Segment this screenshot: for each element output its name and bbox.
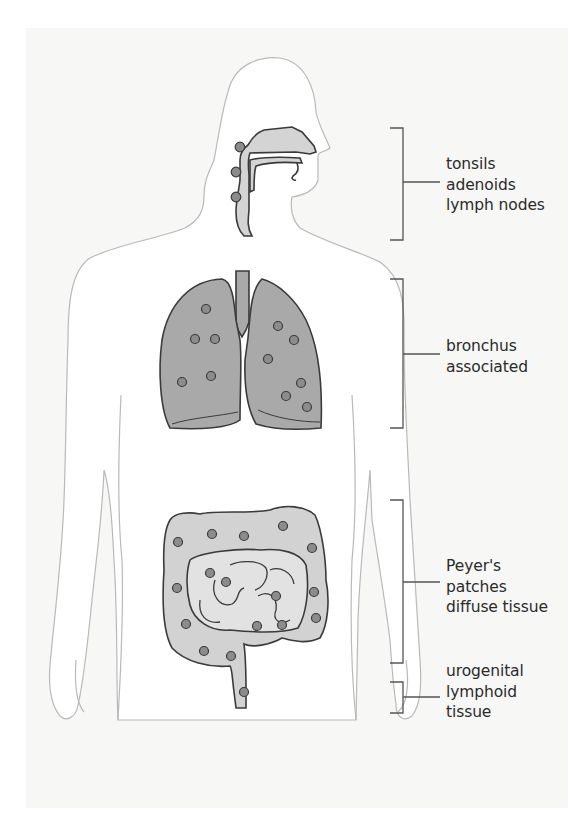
lymph-node-marker [208, 530, 217, 539]
label-line: Peyer's [446, 556, 548, 577]
label-line: adenoids [446, 175, 545, 196]
lymph-node-marker [312, 614, 321, 623]
bracket [390, 128, 440, 240]
lymph-node-marker [264, 355, 273, 364]
lymph-node-marker [200, 647, 209, 656]
label-line: patches [446, 577, 548, 598]
lymph-node-marker [231, 192, 241, 202]
label-line: tissue [446, 702, 524, 723]
lymph-node-marker [207, 372, 216, 381]
lymph-node-marker [310, 588, 319, 597]
label-bronchus-associated: bronchus associated [446, 336, 528, 377]
lymph-node-marker [206, 569, 215, 578]
lymph-node-marker [211, 335, 220, 344]
lymph-node-marker [272, 592, 281, 601]
lymph-node-marker [279, 522, 288, 531]
lymph-node-marker [274, 322, 283, 331]
label-line: tonsils [446, 154, 545, 175]
label-tonsils-adenoids-lymph-nodes: tonsils adenoids lymph nodes [446, 154, 545, 216]
lymph-node-marker [282, 392, 291, 401]
lymph-node-marker [182, 620, 191, 629]
label-line: diffuse tissue [446, 597, 548, 618]
lymph-node-marker [308, 544, 317, 553]
lymph-node-marker [290, 336, 299, 345]
lymph-node-marker [222, 578, 231, 587]
lymph-node-marker [173, 584, 182, 593]
label-line: associated [446, 357, 528, 378]
lymph-node-marker [253, 622, 262, 631]
lymph-node-marker [240, 688, 249, 697]
label-line: lymphoid [446, 682, 524, 703]
lymph-node-marker [278, 621, 287, 630]
lymph-node-marker [240, 532, 249, 541]
label-peyers-patches: Peyer's patches diffuse tissue [446, 556, 548, 618]
lymph-node-marker [297, 379, 306, 388]
label-line: urogenital [446, 661, 524, 682]
lymph-node-marker [202, 305, 211, 314]
label-urogenital-lymphoid-tissue: urogenital lymphoid tissue [446, 661, 524, 723]
label-line: lymph nodes [446, 195, 545, 216]
lymph-node-marker [191, 335, 200, 344]
lymph-node-marker [231, 167, 241, 177]
lymph-node-marker [174, 538, 183, 547]
lymph-node-marker [235, 142, 245, 152]
lymph-node-marker [227, 652, 236, 661]
lymph-node-marker [303, 403, 312, 412]
lymph-node-marker [178, 378, 187, 387]
label-line: bronchus [446, 336, 528, 357]
